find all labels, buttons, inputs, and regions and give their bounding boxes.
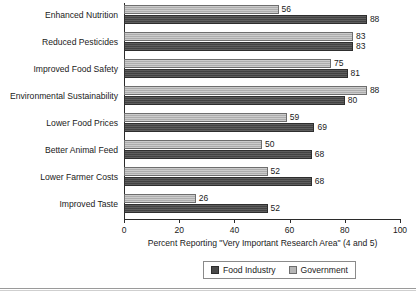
- bar-chart: 020406080100 Enhanced Nutrition5688Reduc…: [0, 0, 416, 297]
- x-axis-tick-label: 60: [285, 225, 294, 235]
- footer-divider: [0, 288, 416, 289]
- bar-value-government: 83: [356, 31, 365, 41]
- x-axis-tick-label: 80: [340, 225, 349, 235]
- x-axis-tick-label: 100: [393, 225, 407, 235]
- category-label: Lower Food Prices: [0, 118, 118, 129]
- x-axis-tick: [290, 219, 291, 223]
- bar-value-food-industry: 68: [315, 149, 324, 159]
- bar-value-food-industry: 68: [315, 176, 324, 186]
- bar-government: [124, 167, 268, 176]
- bar-food-industry: [124, 204, 268, 213]
- bar-group: Improved Taste2652: [0, 192, 416, 219]
- bar-food-industry: [124, 15, 367, 24]
- bar-food-industry: [124, 177, 312, 186]
- bar-value-government: 56: [282, 4, 291, 14]
- bar-value-government: 52: [271, 166, 280, 176]
- legend-label-government: Government: [301, 265, 348, 275]
- bar-value-food-industry: 52: [271, 203, 280, 213]
- bar-government: [124, 113, 287, 122]
- bar-food-industry: [124, 69, 348, 78]
- category-label: Reduced Pesticides: [0, 37, 118, 48]
- x-axis-tick: [179, 219, 180, 223]
- bar-group: Reduced Pesticides8383: [0, 30, 416, 57]
- category-label: Improved Food Safety: [0, 64, 118, 75]
- bar-group: Enhanced Nutrition5688: [0, 3, 416, 30]
- x-axis-line: [124, 219, 401, 220]
- category-label: Enhanced Nutrition: [0, 10, 118, 21]
- bar-food-industry: [124, 123, 314, 132]
- bar-government: [124, 59, 331, 68]
- bar-government: [124, 140, 262, 149]
- bar-government: [124, 86, 367, 95]
- dark-gray-swatch-icon: [211, 266, 219, 274]
- x-axis-tick: [234, 219, 235, 223]
- category-label: Better Animal Feed: [0, 145, 118, 156]
- x-axis-tick: [124, 219, 125, 223]
- bar-value-government: 75: [334, 58, 343, 68]
- bar-food-industry: [124, 150, 312, 159]
- footer-divider-secondary: [0, 290, 416, 291]
- chart-legend: Food Industry Government: [203, 261, 356, 279]
- category-label: Lower Farmer Costs: [0, 172, 118, 183]
- bar-value-government: 50: [265, 139, 274, 149]
- bar-food-industry: [124, 42, 353, 51]
- bar-group: Improved Food Safety7581: [0, 57, 416, 84]
- x-axis-tick: [345, 219, 346, 223]
- x-axis-tick: [400, 219, 401, 223]
- legend-item-government: Government: [289, 265, 348, 275]
- bar-government: [124, 5, 279, 14]
- bar-food-industry: [124, 96, 345, 105]
- bar-value-government: 88: [370, 85, 379, 95]
- legend-item-food-industry: Food Industry: [211, 265, 276, 275]
- bar-value-government: 59: [290, 112, 299, 122]
- bar-government: [124, 32, 353, 41]
- bar-value-food-industry: 88: [370, 14, 379, 24]
- light-gray-swatch-icon: [289, 266, 297, 274]
- bar-group: Lower Farmer Costs5268: [0, 165, 416, 192]
- x-axis-title: Percent Reporting "Very Important Resear…: [124, 238, 401, 248]
- x-axis-tick-label: 40: [230, 225, 239, 235]
- category-label: Improved Taste: [0, 199, 118, 210]
- category-label: Environmental Sustainability: [0, 91, 118, 102]
- bar-value-government: 26: [199, 193, 208, 203]
- legend-label-food-industry: Food Industry: [223, 265, 276, 275]
- x-axis-tick-label: 0: [122, 225, 127, 235]
- bar-group: Environmental Sustainability8880: [0, 84, 416, 111]
- bar-value-food-industry: 80: [348, 95, 357, 105]
- bar-value-food-industry: 83: [356, 41, 365, 51]
- bar-value-food-industry: 81: [351, 68, 360, 78]
- bar-group: Better Animal Feed5068: [0, 138, 416, 165]
- x-axis-tick-label: 20: [174, 225, 183, 235]
- bar-government: [124, 194, 196, 203]
- bar-group: Lower Food Prices5969: [0, 111, 416, 138]
- bar-value-food-industry: 69: [317, 122, 326, 132]
